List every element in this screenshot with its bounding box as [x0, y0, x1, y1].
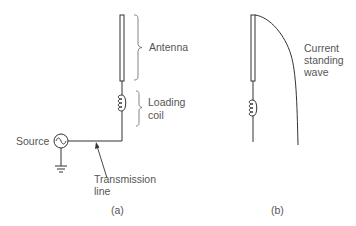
current-label-line1: Current: [304, 42, 339, 54]
loaded-antenna-diagram: Antenna Loading coil Source Transmission…: [0, 0, 356, 226]
ground-icon: [55, 166, 67, 172]
panel-b: Current standing wave (b): [249, 15, 344, 216]
loading-coil-icon: [249, 100, 257, 116]
panel-a: Antenna Loading coil Source Transmission…: [16, 15, 188, 216]
antenna-rod: [120, 15, 124, 81]
current-standing-wave-curve: [255, 15, 298, 145]
loading-coil-label-line1: Loading: [148, 96, 186, 108]
antenna-rod: [251, 15, 255, 81]
current-label-line3: wave: [303, 66, 329, 78]
transmission-line-label-line2: line: [94, 185, 111, 197]
loading-coil-icon: [118, 95, 126, 111]
loading-coil-brace: [136, 91, 142, 126]
current-label-line2: standing: [304, 54, 344, 66]
arrowhead-icon: [95, 142, 100, 149]
antenna-brace: [134, 15, 142, 80]
sine-wave-icon: [56, 138, 66, 144]
transmission-line-label-line1: Transmission: [94, 173, 156, 185]
panel-b-caption: (b): [271, 204, 284, 216]
panel-a-caption: (a): [111, 204, 124, 216]
antenna-label: Antenna: [149, 41, 188, 53]
source-label: Source: [16, 135, 49, 147]
loading-coil-label-line2: coil: [148, 109, 164, 121]
